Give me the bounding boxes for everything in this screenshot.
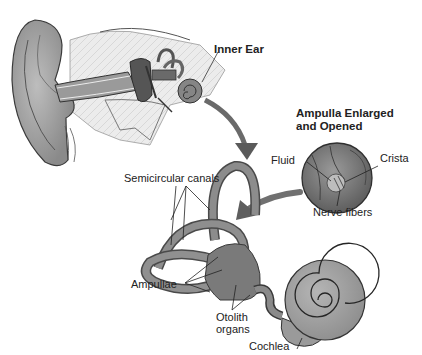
label-inner-ear: Inner Ear [214,43,264,55]
cochlea-illustration [281,243,379,349]
zoom-arrow-to-ampulla [236,192,300,220]
ampulla-enlarged-view [302,143,378,213]
label-ampulla-heading-2: and Opened [296,120,362,132]
label-nerve-fibers: Nerve fibers [313,206,372,218]
label-cochlea: Cochlea [249,340,289,352]
zoom-arrow-to-labyrinth [205,100,258,160]
label-crista: Crista [380,152,409,164]
label-otolith-1: Otolith [216,311,248,323]
label-ampulla-heading-1: Ampulla Enlarged [296,107,394,119]
label-otolith-2: organs [216,323,250,335]
label-fluid: Fluid [271,154,295,166]
vestibular-labyrinth [146,166,282,316]
outer-ear-cross-section [12,20,225,166]
label-semicircular-canals: Semicircular canals [124,172,219,184]
inner-ear-diagram: Inner Ear Ampulla Enlarged and Opened Fl… [0,0,422,355]
label-ampullae: Ampullae [131,278,177,290]
